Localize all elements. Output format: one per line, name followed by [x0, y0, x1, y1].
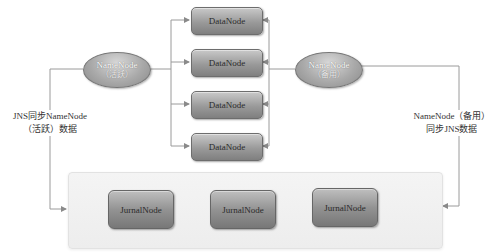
hdfs-ha-diagram: JurnalNode JurnalNode JurnalNode DataNod… [0, 0, 494, 252]
namenode-standby-role: （备用） [313, 70, 345, 80]
datanode-2: DataNode [191, 49, 263, 77]
datanode-3: DataNode [191, 91, 263, 119]
right-edge-label-line2: 同步JNS数据 [410, 123, 494, 136]
namenode-standby-name: NameNode [309, 60, 350, 70]
journalnode-3-label: JurnalNode [324, 203, 366, 213]
journalnode-1-label: JurnalNode [120, 205, 162, 215]
journalnode-3: JurnalNode [312, 188, 378, 227]
left-edge-label: JNS同步NameNode （活跃）数据 [4, 110, 96, 136]
namenode-standby: NameNode （备用） [295, 52, 363, 88]
left-edge-label-line2: （活跃）数据 [4, 123, 96, 136]
journalnode-2: JurnalNode [210, 190, 276, 229]
datanode-3-label: DataNode [209, 100, 245, 110]
namenode-active: NameNode （活跃） [83, 52, 151, 88]
datanode-2-label: DataNode [209, 58, 245, 68]
namenode-active-role: （活跃） [101, 70, 133, 80]
namenode-active-name: NameNode [97, 60, 138, 70]
datanode-4-label: DataNode [209, 142, 245, 152]
datanode-1: DataNode [191, 7, 263, 35]
right-edge-label-line1: NameNode（备用） [410, 110, 494, 123]
left-edge-label-line1: JNS同步NameNode [4, 110, 96, 123]
right-edge-label: NameNode（备用） 同步JNS数据 [410, 110, 494, 136]
datanode-4: DataNode [191, 133, 263, 161]
journalnode-1: JurnalNode [108, 190, 174, 229]
journalnode-2-label: JurnalNode [222, 205, 264, 215]
datanode-1-label: DataNode [209, 16, 245, 26]
